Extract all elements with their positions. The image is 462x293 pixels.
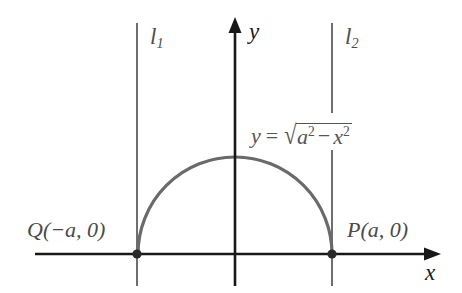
line-label-l1: l1 — [150, 25, 164, 51]
x-axis-arrowhead — [424, 248, 441, 261]
line-label-l1-subscript: 1 — [156, 35, 163, 51]
curve-equation: y=√a2−x2 — [251, 119, 352, 148]
line-label-l2: l2 — [345, 25, 359, 51]
line-label-l2-subscript: 2 — [351, 35, 358, 51]
equation-term-a-exponent: 2 — [308, 124, 315, 139]
diagram-canvas — [0, 0, 462, 293]
equation-radicand: a2−x2 — [296, 123, 352, 148]
point-marker-q — [132, 249, 141, 258]
y-axis-arrowhead — [229, 17, 242, 33]
equation-term-x: x — [333, 123, 343, 148]
equation-equals-sign: = — [261, 123, 283, 148]
y-axis-label: y — [249, 20, 259, 43]
equation-radical-group: √a2−x2 — [283, 119, 352, 148]
point-label-q: Q(−a, 0) — [27, 219, 105, 241]
equation-lhs: y — [251, 123, 261, 148]
equation-term-a: a — [297, 123, 308, 148]
point-marker-p — [327, 249, 336, 258]
x-axis-label: x — [425, 261, 435, 284]
semicircle-diagram: y x l1 l2 Q(−a, 0) P(a, 0) y=√a2−x2 — [0, 0, 462, 293]
equation-term-x-exponent: 2 — [343, 124, 350, 139]
point-label-p: P(a, 0) — [347, 219, 408, 241]
radical-icon: √ — [284, 122, 297, 149]
equation-minus-sign: − — [315, 123, 333, 148]
